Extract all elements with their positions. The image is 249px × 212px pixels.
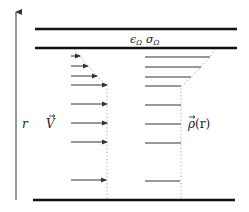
svg-text:ρ(r): ρ(r) xyxy=(187,117,210,131)
velocity-label: V xyxy=(46,115,56,132)
r-axis-label: r xyxy=(22,117,29,131)
flow-profile-diagram: ϵΩσΩ r V ρ(r) xyxy=(0,0,249,212)
plates xyxy=(33,29,237,200)
velocity-profile-dotted xyxy=(74,49,107,200)
density-label: ρ(r) xyxy=(187,116,210,132)
layer-properties-label: ϵΩσΩ xyxy=(130,33,160,47)
svg-text:V: V xyxy=(46,117,56,131)
velocity-arrows xyxy=(71,56,107,180)
